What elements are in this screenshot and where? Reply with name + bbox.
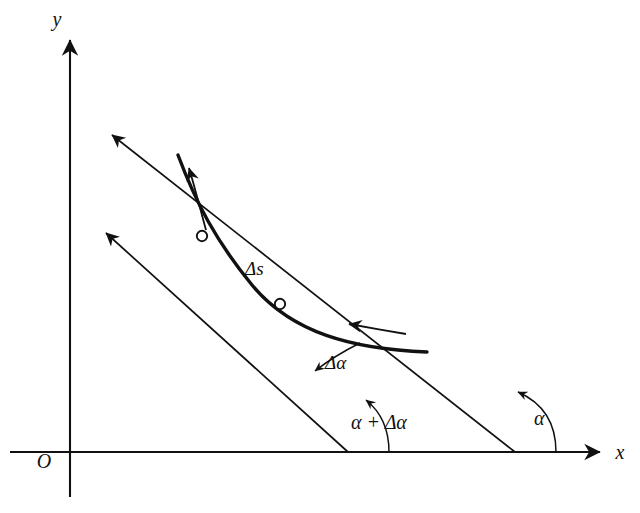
curve-direction-arrow-upper <box>189 168 206 230</box>
arc-length-label: Δs <box>244 258 264 279</box>
curvature-diagram: y x O Δs Δα α + Δα α <box>0 0 640 513</box>
delta-angle-label: Δα <box>324 352 347 373</box>
axes-group <box>10 40 600 497</box>
plane-curve <box>178 155 427 352</box>
y-axis-label: y <box>51 8 62 31</box>
angle-alpha-label: α <box>534 407 545 429</box>
origin-label: O <box>37 450 51 472</box>
point-upper <box>197 231 207 241</box>
tangent-line-alpha-plus-delta-alpha <box>106 233 348 452</box>
figure-root: y x O Δs Δα α + Δα α <box>0 0 640 513</box>
angle-alpha-plus-delta-alpha-label: α + Δα <box>351 411 407 433</box>
x-axis-label: x <box>615 441 625 463</box>
point-lower <box>275 299 285 309</box>
